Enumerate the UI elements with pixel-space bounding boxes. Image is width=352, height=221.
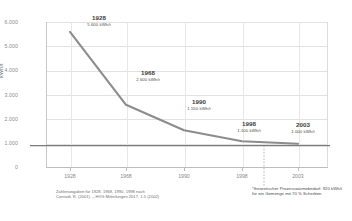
energy-consumption-line-chart: kWh/t 6.000 5.000 4.000 3.000 2.000 1.00… xyxy=(0,0,352,221)
x-tick-label-1968: 1968 xyxy=(106,174,146,179)
y-tick-label-0: 0 xyxy=(0,165,18,170)
point-annotation-1990: 1990 1.550 kWh/t xyxy=(169,99,229,111)
y-tick-label-2000: 2.000 xyxy=(0,117,18,122)
point-annotation-1928-value: 5.600 kWh/t xyxy=(69,22,129,27)
y-tick-label-5000: 5.000 xyxy=(0,44,18,49)
source-note: Zahlenangaben für 1928, 1968, 1990, 1998… xyxy=(56,189,159,199)
gridline-x-1998 xyxy=(243,22,244,167)
gridline-x-1968 xyxy=(127,22,128,167)
x-tick-label-2003: 2003 xyxy=(278,174,318,179)
gridline-4000 xyxy=(47,71,328,72)
x-tick-label-1990: 1990 xyxy=(164,174,204,179)
point-annotation-1998-year: 1998 xyxy=(219,121,279,128)
x-tick-1928 xyxy=(70,168,71,171)
source-note-line-2: Conradt, R. (2001). – HVG Mitteilungen 2… xyxy=(56,194,159,199)
process-heat-footnote: *theoretischer Prozesswärmebedarf: 920 k… xyxy=(252,186,347,197)
x-tick-2003 xyxy=(298,168,299,171)
point-annotation-1998: 1998 1.100 kWh/t xyxy=(219,121,279,133)
gridline-x-1928 xyxy=(71,22,72,167)
x-tick-1998 xyxy=(242,168,243,171)
point-annotation-1990-year: 1990 xyxy=(169,99,229,106)
y-tick-label-1000: 1.000 xyxy=(0,141,18,146)
point-annotation-2003-value: 1.000 kWh/t xyxy=(273,129,333,134)
x-tick-label-1928: 1928 xyxy=(50,174,90,179)
point-annotation-1968-year: 1968 xyxy=(118,70,178,77)
point-annotation-1990-value: 1.550 kWh/t xyxy=(169,106,229,111)
gridline-1000 xyxy=(47,144,328,145)
plot-area xyxy=(46,22,328,168)
point-annotation-1928-year: 1928 xyxy=(69,15,129,22)
plot-right-border xyxy=(327,22,328,167)
point-annotation-1968-value: 2.600 kWh/t xyxy=(118,77,178,82)
point-annotation-2003: 2003 1.000 kWh/t xyxy=(273,122,333,134)
x-tick-1968 xyxy=(126,168,127,171)
gridline-2000 xyxy=(47,119,328,120)
gridline-3000 xyxy=(47,95,328,96)
y-tick-label-4000: 4.000 xyxy=(0,68,18,73)
point-annotation-1998-value: 1.100 kWh/t xyxy=(219,128,279,133)
point-annotation-1928: 1928 5.600 kWh/t xyxy=(69,15,129,27)
gridline-5000 xyxy=(47,46,328,47)
gridline-x-2003 xyxy=(299,22,300,167)
y-tick-label-3000: 3.000 xyxy=(0,93,18,98)
x-tick-1990 xyxy=(184,168,185,171)
y-tick-label-6000: 6.000 xyxy=(0,20,18,25)
point-annotation-1968: 1968 2.600 kWh/t xyxy=(118,70,178,82)
gridline-x-1990 xyxy=(185,22,186,167)
x-tick-label-1998: 1998 xyxy=(222,174,262,179)
point-annotation-2003-year: 2003 xyxy=(273,122,333,129)
